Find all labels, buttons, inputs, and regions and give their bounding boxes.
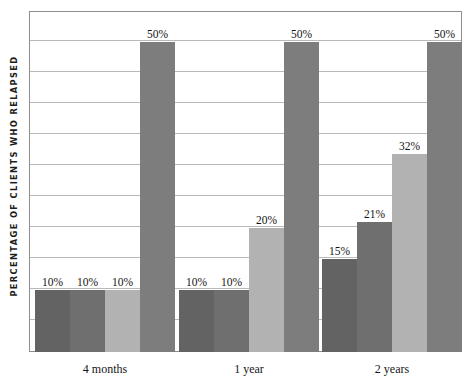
bar[interactable]: 20% (249, 228, 284, 352)
bar[interactable]: 15% (322, 259, 357, 352)
bar[interactable]: 10% (179, 290, 214, 352)
bar[interactable]: 21% (357, 222, 392, 352)
bar-value-label: 50% (434, 28, 455, 41)
bars-layer: 10%10%10%50%10%10%20%50%15%21%32%50% (29, 11, 462, 352)
x-axis: 4 months1 year2 years (29, 353, 462, 380)
bar-value-label: 10% (112, 276, 133, 289)
bar[interactable]: 32% (392, 154, 427, 352)
bar-value-label: 15% (329, 245, 350, 258)
bar-value-label: 50% (291, 28, 312, 41)
bar[interactable]: 10% (214, 290, 249, 352)
bar[interactable]: 10% (35, 290, 70, 352)
bar[interactable]: 50% (140, 42, 175, 352)
x-axis-tick-label: 1 year (234, 362, 264, 377)
bar-group: 10%10%20%50% (179, 11, 319, 352)
bar[interactable]: 10% (70, 290, 105, 352)
y-axis-title: PERCENTAGE OF CLIENTS WHO RELAPSED (0, 0, 28, 352)
bar-value-label: 10% (42, 276, 63, 289)
x-axis-tick-label: 2 years (375, 362, 409, 377)
bar-value-label: 32% (399, 140, 420, 153)
bar[interactable]: 10% (105, 290, 140, 352)
bar-value-label: 50% (147, 28, 168, 41)
bar[interactable]: 50% (284, 42, 319, 352)
bar-value-label: 20% (256, 214, 277, 227)
bar-value-label: 10% (221, 276, 242, 289)
bar-value-label: 21% (364, 208, 385, 221)
bar[interactable]: 50% (427, 42, 462, 352)
bar-group: 15%21%32%50% (322, 11, 462, 352)
bar-value-label: 10% (186, 276, 207, 289)
bar-value-label: 10% (77, 276, 98, 289)
relapse-bar-chart: PERCENTAGE OF CLIENTS WHO RELAPSED 10%10… (0, 0, 469, 380)
x-axis-tick-label: 4 months (83, 362, 127, 377)
bar-group: 10%10%10%50% (35, 11, 175, 352)
y-axis-title-label: PERCENTAGE OF CLIENTS WHO RELAPSED (9, 55, 19, 296)
